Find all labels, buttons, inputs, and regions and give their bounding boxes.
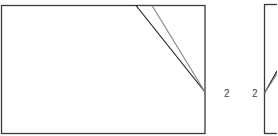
- left-panel-rect: [2, 6, 206, 134]
- right-point-label: 2: [252, 89, 258, 99]
- left-panel: [2, 6, 206, 134]
- right-panel-rect: [265, 5, 278, 134]
- left-point-label: 2: [224, 89, 230, 99]
- right-panel: [265, 5, 278, 134]
- fold-diagram: [0, 0, 277, 136]
